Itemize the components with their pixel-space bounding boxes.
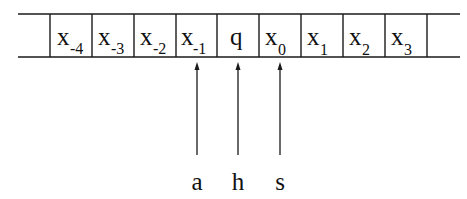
- svg-text:-4: -4: [70, 40, 83, 57]
- svg-text:x: x: [349, 23, 362, 50]
- svg-text:x: x: [140, 23, 153, 50]
- pointer-arrow-s: [278, 62, 283, 155]
- svg-text:3: 3: [404, 41, 412, 58]
- svg-text:x: x: [265, 23, 278, 50]
- svg-text:1: 1: [320, 41, 328, 58]
- tape-cell-x-1: x -1: [181, 23, 206, 57]
- svg-text:q: q: [230, 23, 243, 50]
- arrowhead-icon: [195, 62, 200, 70]
- tape-cell-q: q: [230, 23, 243, 50]
- svg-text:-2: -2: [153, 40, 166, 57]
- svg-text:x: x: [98, 23, 111, 50]
- pointer-arrow-h: [236, 62, 241, 155]
- pointer-label-h: h: [232, 168, 245, 195]
- svg-text:-3: -3: [111, 40, 124, 57]
- svg-text:x: x: [57, 23, 70, 50]
- pointer-label-s: s: [275, 168, 285, 195]
- tape-diagram: x -4 x -3 x -2 x -1 q x 0 x 1 x 2 x 3: [0, 0, 467, 199]
- svg-text:x: x: [307, 23, 320, 50]
- pointer-arrow-a: [195, 62, 200, 155]
- tape-cell-x-3: x -3: [98, 23, 124, 57]
- svg-text:-1: -1: [193, 40, 206, 57]
- tape-cell-x-2: x -2: [140, 23, 166, 57]
- pointer-label-a: a: [191, 168, 202, 195]
- svg-text:0: 0: [278, 41, 286, 58]
- tape-cell-x-4: x -4: [57, 23, 83, 57]
- tape-cell-x3: x 3: [391, 23, 412, 58]
- arrowhead-icon: [278, 62, 283, 70]
- tape-cell-x2: x 2: [349, 23, 370, 58]
- svg-text:x: x: [391, 23, 404, 50]
- arrowhead-icon: [236, 62, 241, 70]
- tape-cell-x0: x 0: [265, 23, 286, 58]
- tape-cell-x1: x 1: [307, 23, 328, 58]
- svg-text:2: 2: [362, 41, 370, 58]
